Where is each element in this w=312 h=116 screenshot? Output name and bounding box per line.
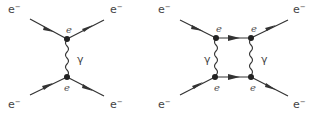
photon-propagator-left <box>215 39 218 75</box>
label-electron-top-right: e− <box>293 3 306 16</box>
fermion-line-out-bottom <box>251 77 288 96</box>
vertex-bottom-left <box>212 74 218 80</box>
diagram-single-exchange: e− e− e− e− e e γ <box>8 3 123 111</box>
vertex-bottom <box>64 74 70 80</box>
fermion-line-bottom-left <box>30 77 67 95</box>
label-vertex-top: e <box>66 24 72 35</box>
fermion-line-in-top <box>180 20 216 38</box>
fermion-line-in-bottom <box>180 77 215 95</box>
label-photon-left: γ <box>204 53 211 66</box>
label-electron-bottom-left: e− <box>158 98 171 111</box>
vertex-top-right <box>248 35 254 41</box>
photon-propagator-right <box>250 39 253 75</box>
label-electron-bottom-left: e− <box>8 98 21 111</box>
fermion-line-top-right <box>67 20 104 39</box>
photon-propagator <box>66 40 69 76</box>
fermion-line-internal-top <box>216 35 251 41</box>
diagram-box-exchange: e− e− e− e− e e e e γ γ <box>158 3 306 111</box>
fermion-line-internal-bottom <box>215 74 251 80</box>
fermion-line-bottom-right <box>67 77 104 96</box>
label-vertex-top-right: e <box>251 23 257 34</box>
fermion-line-top-left <box>30 19 67 39</box>
label-vertex-bottom-right: e <box>250 82 256 93</box>
label-photon-right: γ <box>261 53 268 66</box>
label-vertex-top-left: e <box>216 23 222 34</box>
label-electron-bottom-right: e− <box>110 98 123 111</box>
vertex-top-left <box>213 35 219 41</box>
label-electron-top-left: e− <box>158 3 171 16</box>
label-electron-bottom-right: e− <box>293 98 306 111</box>
vertex-top <box>64 36 70 42</box>
label-vertex-bottom-left: e <box>214 82 220 93</box>
feynman-diagrams: e− e− e− e− e e γ <box>0 0 312 116</box>
label-electron-top-left: e− <box>8 3 21 16</box>
label-photon: γ <box>77 53 84 66</box>
vertex-bottom-right <box>248 74 254 80</box>
label-vertex-bottom: e <box>64 82 70 93</box>
label-electron-top-right: e− <box>110 3 123 16</box>
